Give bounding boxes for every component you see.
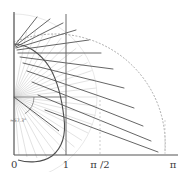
dark-ray-fan — [15, 17, 158, 152]
x-tick-label-1: 1 — [63, 159, 69, 170]
figure-canvas: ≈57.3° 0 1 — [0, 0, 184, 172]
light-arc-lower — [14, 97, 97, 172]
x-tick-label-0: 0 — [11, 159, 17, 170]
x-tick-label-pi-over-2: π /2 — [90, 159, 109, 170]
radian-fan-figure: ≈57.3° 0 1 — [0, 0, 184, 172]
light-ray-fan — [14, 14, 97, 158]
x-tick-label-pi: π — [170, 159, 177, 170]
angle-label: ≈57.3° — [10, 118, 26, 123]
